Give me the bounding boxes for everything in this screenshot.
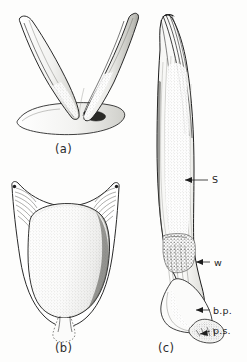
panel-c-shaft-stipple: [165, 63, 190, 241]
panel-c-waist-granulation: [163, 234, 195, 273]
panel-a-right-arm: [83, 13, 139, 120]
label-shaft: S: [212, 174, 218, 185]
label-process: p.s.: [213, 325, 231, 336]
figure-plate: (a) (b) (c) S w b.p. p.s.: [0, 0, 247, 362]
panel-a-left-arm: [19, 16, 79, 119]
plate-artwork: [0, 0, 247, 362]
leader-line-w: [196, 259, 210, 265]
label-basal-plate: b.p.: [213, 305, 232, 316]
caption-a: (a): [55, 142, 72, 156]
caption-b: (b): [55, 341, 72, 355]
panel-b-drawing: [12, 182, 119, 342]
label-waist: w: [214, 257, 222, 268]
caption-c: (c): [158, 341, 174, 355]
panel-a-drawing: [17, 13, 138, 134]
